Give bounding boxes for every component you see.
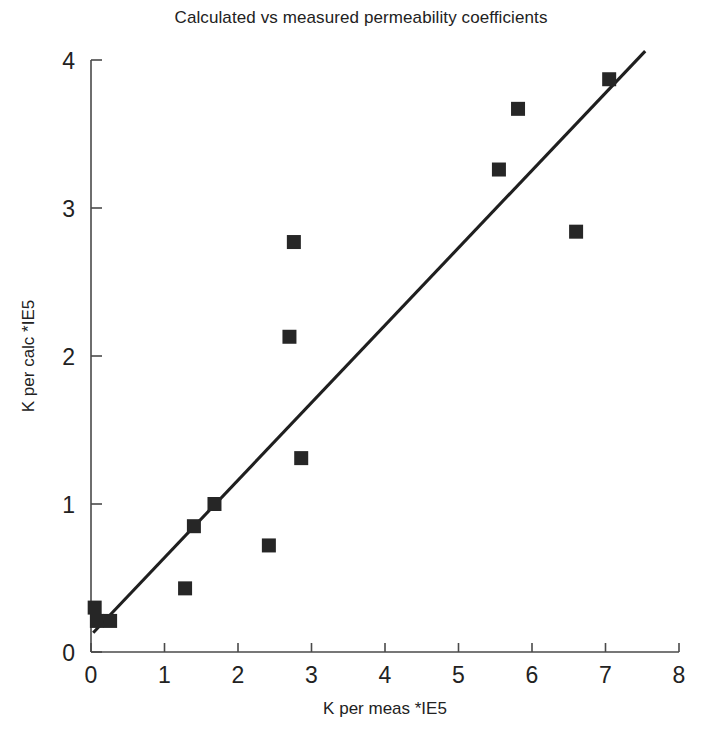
data-point-marker [207, 497, 221, 511]
data-markers-group [88, 72, 617, 628]
data-point-marker [282, 330, 296, 344]
y-tick-label: 3 [62, 196, 75, 222]
data-point-marker [103, 614, 117, 628]
y-tick-label: 1 [62, 492, 75, 518]
data-point-marker [294, 451, 308, 465]
y-tick-label: 4 [62, 48, 75, 74]
x-tick-label: 4 [379, 662, 392, 688]
data-point-marker [90, 614, 104, 628]
chart-figure: Calculated vs measured permeability coef… [0, 0, 722, 740]
x-axis-title: K per meas *IE5 [323, 699, 447, 718]
y-axis-title: K per calc *IE5 [19, 300, 38, 412]
data-point-marker [569, 225, 583, 239]
x-tick-label: 2 [232, 662, 245, 688]
data-point-marker [88, 601, 102, 615]
data-point-marker [187, 519, 201, 533]
x-tick-label: 6 [526, 662, 539, 688]
x-tick-label: 8 [673, 662, 686, 688]
trend-line [93, 51, 645, 633]
x-tick-label: 1 [158, 662, 171, 688]
x-tick-label: 5 [452, 662, 465, 688]
trend-line-group [93, 51, 645, 633]
x-axis-ticks: 012345678 [85, 643, 686, 688]
x-tick-label: 0 [85, 662, 98, 688]
data-point-marker [178, 581, 192, 595]
data-point-marker [511, 102, 525, 116]
data-point-marker [492, 163, 506, 177]
y-tick-label: 2 [62, 344, 75, 370]
scatter-plot: 012345678 01234 K per meas *IE5 K per ca… [0, 0, 722, 740]
axes [91, 60, 679, 652]
data-point-marker [602, 72, 616, 86]
y-axis-ticks: 01234 [62, 48, 102, 666]
data-point-marker [262, 538, 276, 552]
data-point-marker [287, 235, 301, 249]
x-tick-label: 3 [305, 662, 318, 688]
x-tick-label: 7 [599, 662, 612, 688]
y-tick-label: 0 [62, 640, 75, 666]
